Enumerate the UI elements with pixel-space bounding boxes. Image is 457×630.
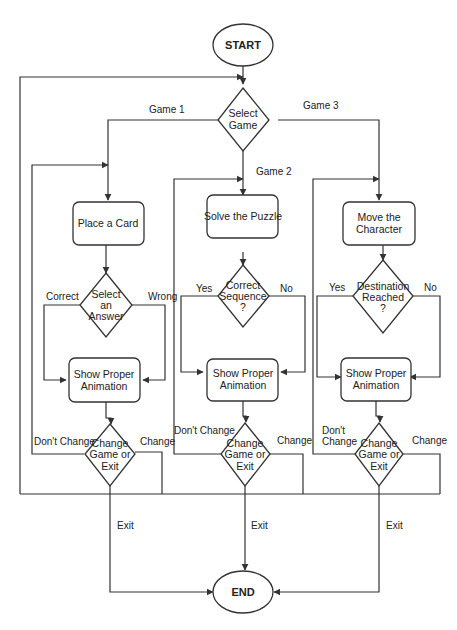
game3-animation-node: Show Proper Animation	[341, 358, 411, 401]
svg-text:Game: Game	[229, 119, 258, 131]
game3-dont-change-label-line2: Change	[322, 436, 357, 447]
svg-text:START: START	[225, 39, 261, 51]
game3-decision-node: Destination Reached ?	[353, 260, 413, 333]
svg-text:Animation: Animation	[220, 379, 267, 391]
svg-text:Move the: Move the	[357, 211, 400, 223]
svg-text:Character: Character	[356, 223, 403, 235]
svg-text:Animation: Animation	[81, 380, 128, 392]
connectors	[20, 66, 440, 592]
game3-action-node: Move the Character	[343, 202, 415, 245]
svg-text:Exit: Exit	[101, 460, 119, 472]
game3-exit-label: Exit	[386, 520, 403, 531]
svg-text:Place a Card: Place a Card	[78, 217, 139, 229]
game3-change-label: Change	[412, 435, 447, 446]
game1-correct-label: Correct	[46, 291, 79, 302]
svg-text:Exit: Exit	[236, 460, 254, 472]
svg-text:Game or: Game or	[359, 448, 400, 460]
game2-branch-label: Game 2	[256, 166, 292, 177]
game1-decision-node: Select an Answer	[80, 273, 132, 337]
game3-yes-label: Yes	[329, 282, 345, 293]
game1-wrong-label: Wrong	[148, 291, 177, 302]
svg-text:Game or: Game or	[90, 448, 131, 460]
select-game-decision: Select Game	[218, 88, 269, 151]
game1-change-label: Change	[140, 436, 175, 447]
game1-action-node: Place a Card	[73, 202, 144, 245]
flowchart: START END Select Game Game 1 Game 2 Game…	[0, 0, 457, 630]
svg-text:?: ?	[240, 301, 246, 313]
game1-exit-label: Exit	[117, 520, 134, 531]
svg-text:?: ?	[380, 302, 386, 314]
svg-text:Exit: Exit	[370, 460, 388, 472]
svg-text:Game or: Game or	[225, 448, 266, 460]
game3-branch-label: Game 3	[303, 100, 339, 111]
svg-text:END: END	[231, 586, 254, 598]
start-terminal: START	[213, 24, 273, 66]
game1-branch-label: Game 1	[149, 104, 185, 115]
game3-no-label: No	[424, 282, 437, 293]
game2-exit-label: Exit	[251, 520, 268, 531]
svg-text:Show Proper: Show Proper	[213, 367, 274, 379]
svg-text:Show Proper: Show Proper	[346, 367, 407, 379]
game3-dont-change-label-line1: Don't	[322, 425, 345, 436]
game2-yes-label: Yes	[196, 283, 212, 294]
svg-text:Solve the Puzzle: Solve the Puzzle	[204, 210, 282, 222]
game1-dont-change-label: Don't Change	[34, 436, 95, 447]
game2-decision-node: Correct Sequence ?	[218, 265, 269, 327]
game2-animation-node: Show Proper Animation	[207, 359, 278, 401]
svg-text:Select: Select	[228, 107, 257, 119]
game3-change-node: Change Game or Exit	[355, 423, 403, 486]
game1-change-node: Change Game or Exit	[85, 424, 135, 486]
game2-change-label: Change	[277, 435, 312, 446]
svg-text:Answer: Answer	[88, 310, 124, 322]
end-terminal: END	[213, 571, 273, 613]
game2-no-label: No	[280, 283, 293, 294]
game1-animation-node: Show Proper Animation	[69, 358, 140, 402]
game2-action-node: Solve the Puzzle	[204, 195, 282, 238]
svg-text:Animation: Animation	[353, 379, 400, 391]
svg-text:Show Proper: Show Proper	[74, 368, 135, 380]
game2-dont-change-label: Don't Change	[174, 425, 235, 436]
